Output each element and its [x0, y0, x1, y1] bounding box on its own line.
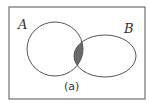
- venn-diagram: A B (a): [0, 0, 150, 103]
- caption: (a): [64, 80, 79, 93]
- set-a-label: A: [17, 17, 27, 32]
- set-b-ellipse: [74, 35, 136, 77]
- set-b-label: B: [123, 21, 134, 36]
- set-a-ellipse: [27, 22, 83, 76]
